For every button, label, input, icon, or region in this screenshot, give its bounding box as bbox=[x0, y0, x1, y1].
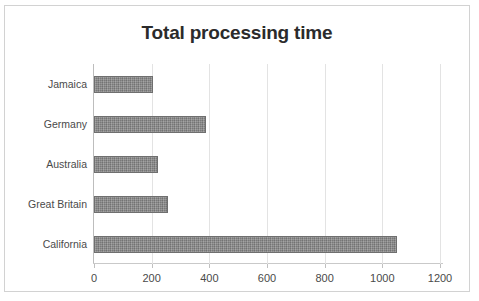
value-axis-tick-label: 1000 bbox=[370, 272, 394, 284]
axis-tick-mark bbox=[382, 264, 383, 268]
value-axis-tick-label: 800 bbox=[315, 272, 333, 284]
value-axis-tick-label: 200 bbox=[142, 272, 160, 284]
bar-row[interactable] bbox=[94, 144, 158, 184]
bar[interactable] bbox=[94, 76, 153, 93]
value-axis-tick-label: 400 bbox=[200, 272, 218, 284]
value-axis-tick-label: 1200 bbox=[428, 272, 452, 284]
bar[interactable] bbox=[94, 156, 158, 173]
category-axis-label: California bbox=[3, 238, 87, 250]
axis-tick-mark bbox=[267, 264, 268, 268]
bar[interactable] bbox=[94, 236, 397, 253]
chart-title: Total processing time bbox=[5, 22, 469, 44]
category-axis-label: Jamaica bbox=[3, 78, 87, 90]
plot-area bbox=[93, 64, 443, 264]
bar[interactable] bbox=[94, 196, 168, 213]
axis-tick-mark bbox=[94, 264, 95, 268]
category-axis-label: Germany bbox=[3, 118, 87, 130]
bar-row[interactable] bbox=[94, 224, 397, 264]
axis-tick-mark bbox=[209, 264, 210, 268]
bar-row[interactable] bbox=[94, 64, 153, 104]
gridline bbox=[440, 64, 441, 264]
axis-tick-mark bbox=[440, 264, 441, 268]
bar[interactable] bbox=[94, 116, 206, 133]
value-axis-tick-label: 0 bbox=[91, 272, 97, 284]
chart-frame: Total processing time JamaicaGermanyAust… bbox=[4, 5, 470, 292]
axis-tick-mark bbox=[152, 264, 153, 268]
value-axis-tick-label: 600 bbox=[258, 272, 276, 284]
category-axis-label: Australia bbox=[3, 158, 87, 170]
bar-row[interactable] bbox=[94, 184, 168, 224]
bar-row[interactable] bbox=[94, 104, 206, 144]
axis-tick-mark bbox=[325, 264, 326, 268]
category-axis-label: Great Britain bbox=[3, 198, 87, 210]
